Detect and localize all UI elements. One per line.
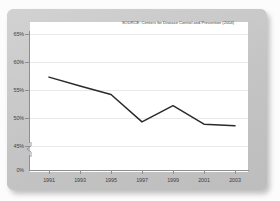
y-axis-line-lower — [29, 155, 30, 171]
y-label-55: 55% — [0, 87, 24, 93]
source-annotation: SOURCE: Centers for Disease Control and … — [108, 20, 248, 25]
y-tick-55 — [25, 90, 30, 91]
gridline-55 — [30, 90, 248, 91]
y-tick-50 — [25, 118, 30, 119]
y-tick-60 — [25, 62, 30, 63]
y-axis-line — [29, 31, 30, 143]
x-label-1999: 1999 — [158, 177, 188, 183]
y-label-50: 50% — [0, 115, 24, 121]
axis-break-icon — [25, 142, 35, 157]
x-tick-1997 — [142, 170, 143, 174]
gridline-50 — [30, 118, 248, 119]
gridline-60 — [30, 62, 248, 63]
x-tick-1991 — [49, 170, 50, 174]
x-axis-line — [29, 170, 249, 171]
plot-area — [30, 30, 248, 172]
x-tick-1995 — [111, 170, 112, 174]
gridline-45 — [30, 146, 248, 147]
y-label-65: 65% — [0, 31, 24, 37]
x-label-2001: 2001 — [189, 177, 219, 183]
x-label-1993: 1993 — [65, 177, 95, 183]
y-label-60: 60% — [0, 59, 24, 65]
x-tick-2001 — [204, 170, 205, 174]
gridline-65 — [30, 34, 248, 35]
chart-figure: SOURCE: Centers for Disease Control and … — [0, 0, 280, 201]
x-label-1995: 1995 — [96, 177, 126, 183]
y-tick-65 — [25, 34, 30, 35]
y-label-45: 45% — [0, 143, 24, 149]
y-axis-labels: 65% 60% 55% 50% 45% 0% — [0, 0, 24, 201]
x-tick-2003 — [235, 170, 236, 174]
x-label-2003: 2003 — [220, 177, 250, 183]
x-tick-1993 — [80, 170, 81, 174]
x-label-1997: 1997 — [127, 177, 157, 183]
y-label-0: 0% — [0, 167, 24, 173]
x-label-1991: 1991 — [34, 177, 64, 183]
y-tick-45 — [25, 146, 30, 147]
x-tick-1999 — [173, 170, 174, 174]
